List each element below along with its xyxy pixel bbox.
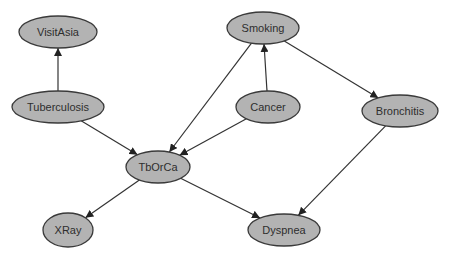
node-label: VisitAsia <box>37 26 80 38</box>
node-label: TbOrCa <box>138 161 178 173</box>
node-label: Bronchitis <box>376 105 425 117</box>
arrow-icon <box>181 178 261 218</box>
arrow-icon <box>81 121 137 155</box>
arrow-icon <box>85 180 139 218</box>
node-xray[interactable]: XRay <box>43 213 93 247</box>
node-dyspnea[interactable]: Dyspnea <box>248 214 320 246</box>
edge-smoking-to-tborca <box>169 43 251 152</box>
arrow-icon <box>298 126 385 216</box>
edges-layer <box>58 41 386 218</box>
edge-smoking-to-bronchitis <box>284 41 378 98</box>
bayesian-network-diagram: VisitAsiaTuberculosisSmokingCancerBronch… <box>0 0 451 260</box>
node-label: Smoking <box>242 22 285 34</box>
node-label: Cancer <box>250 101 286 113</box>
node-cancer[interactable]: Cancer <box>236 91 300 123</box>
node-visitasia[interactable]: VisitAsia <box>19 16 97 48</box>
node-tuberculosis[interactable]: Tuberculosis <box>12 91 104 123</box>
node-tborca[interactable]: TbOrCa <box>126 151 190 183</box>
edge-tborca-to-xray <box>85 180 139 218</box>
node-label: XRay <box>55 224 82 236</box>
arrow-icon <box>169 43 251 152</box>
nodes-layer: VisitAsiaTuberculosisSmokingCancerBronch… <box>12 12 438 247</box>
arrow-icon <box>284 41 378 98</box>
edge-tborca-to-dyspnea <box>181 178 261 218</box>
edge-cancer-to-smoking <box>264 44 267 91</box>
node-label: Dyspnea <box>262 224 306 236</box>
arrow-icon <box>264 44 267 91</box>
node-bronchitis[interactable]: Bronchitis <box>362 95 438 127</box>
node-label: Tuberculosis <box>27 101 89 113</box>
node-smoking[interactable]: Smoking <box>227 12 299 44</box>
edge-tuberculosis-to-tborca <box>81 121 137 155</box>
edge-bronchitis-to-dyspnea <box>298 126 385 216</box>
